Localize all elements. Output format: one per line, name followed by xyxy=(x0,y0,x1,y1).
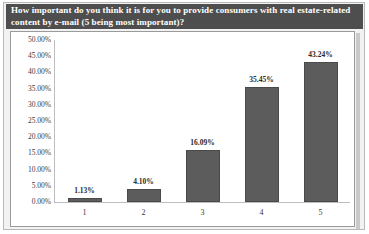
x-axis-tick-label-5: 5 xyxy=(291,208,350,217)
x-axis-tick-label-2: 2 xyxy=(114,208,173,217)
y-axis-labels: 0.00%5.00%10.00%15.00%20.00%25.00%30.00%… xyxy=(11,32,51,226)
chart-title-bar: How important do you think it is for you… xyxy=(6,4,363,29)
y-axis-tick-label: 45.00% xyxy=(11,52,51,60)
chart-panel: 0.00%5.00%10.00%15.00%20.00%25.00%30.00%… xyxy=(10,31,355,227)
y-axis-tick-label: 35.00% xyxy=(11,85,51,93)
y-axis-tick-label: 0.00% xyxy=(11,198,51,206)
x-axis-tick-label-1: 1 xyxy=(55,208,114,217)
y-axis-tick-label: 5.00% xyxy=(11,182,51,190)
y-axis-tick-label: 30.00% xyxy=(11,101,51,109)
page-title: How important do you think it is for you… xyxy=(11,5,359,28)
panel-shadow xyxy=(356,33,360,229)
chart-page-frame: How important do you think it is for you… xyxy=(3,2,365,230)
plot-inner: 0.00%5.00%10.00%15.00%20.00%25.00%30.00%… xyxy=(11,32,354,226)
y-axis-tick-label: 25.00% xyxy=(11,117,51,125)
y-axis-tick-label: 10.00% xyxy=(11,166,51,174)
x-axis-labels: 12345 xyxy=(55,32,350,226)
x-axis-tick-label-4: 4 xyxy=(232,208,291,217)
y-axis-tick-label: 15.00% xyxy=(11,149,51,157)
y-axis-tick-label: 40.00% xyxy=(11,68,51,76)
y-axis-tick-label: 50.00% xyxy=(11,36,51,44)
x-axis-tick-label-3: 3 xyxy=(173,208,232,217)
y-axis-tick-label: 20.00% xyxy=(11,133,51,141)
